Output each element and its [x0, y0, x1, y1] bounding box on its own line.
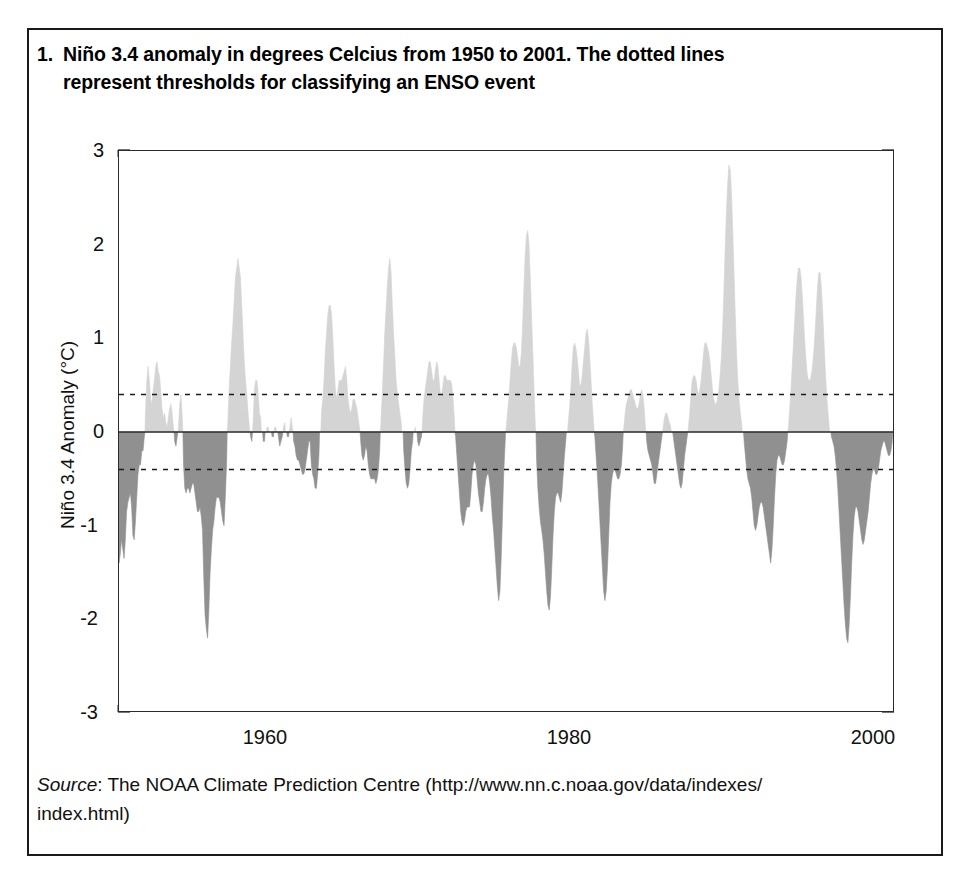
source-separator: : [97, 774, 107, 795]
source-line-2: index.html) [37, 799, 907, 828]
source-label: Source [37, 774, 97, 795]
caption-line-2: represent thresholds for classifying an … [63, 68, 897, 96]
figure-caption: 1.Niño 3.4 anomaly in degrees Celcius fr… [37, 40, 897, 96]
figure-page: 1.Niño 3.4 anomaly in degrees Celcius fr… [0, 0, 970, 887]
figure-source: Source: The NOAA Climate Prediction Cent… [37, 770, 907, 828]
caption-line-1: Niño 3.4 anomaly in degrees Celcius from… [63, 43, 725, 65]
figure-border [27, 28, 943, 856]
source-line-1: The NOAA Climate Prediction Centre (http… [107, 774, 762, 795]
y-axis-title-holder: Niño 3.4 Anomaly (°C) [0, 0, 1, 1]
figure-number: 1. [37, 40, 63, 68]
